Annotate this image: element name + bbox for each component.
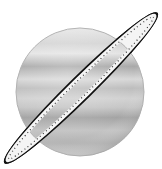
saturn-icon <box>0 0 162 169</box>
planet-illustration: planet-with-ring <box>0 0 162 169</box>
planet-body <box>16 28 144 156</box>
